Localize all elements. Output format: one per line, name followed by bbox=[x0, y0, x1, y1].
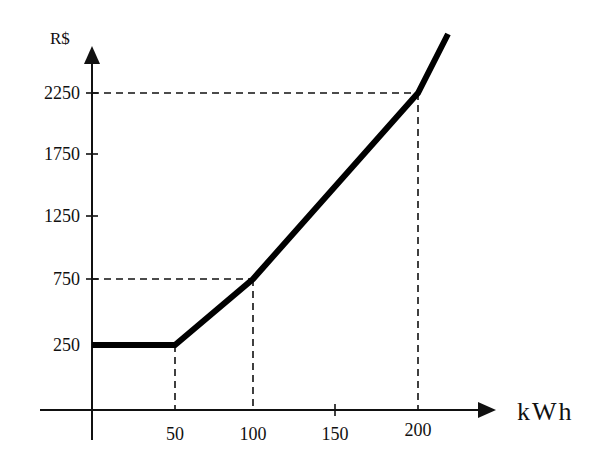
x-tick-label: 100 bbox=[240, 424, 267, 444]
y-tick-label: 1750 bbox=[44, 144, 80, 164]
y-tick-label: 250 bbox=[53, 335, 80, 355]
y-tick-label: 2250 bbox=[44, 83, 80, 103]
reference-lines bbox=[92, 93, 418, 410]
x-axis-label: kWh bbox=[517, 397, 574, 426]
y-tick-label: 750 bbox=[53, 269, 80, 289]
x-axis-arrow-icon bbox=[478, 402, 496, 418]
chart: 2250 1750 1250 750 250 50 100 150 200 R$… bbox=[0, 0, 608, 461]
data-line bbox=[92, 34, 448, 345]
x-tick-label: 150 bbox=[322, 424, 349, 444]
y-axis-arrow-icon bbox=[84, 46, 100, 64]
y-tick-label: 1250 bbox=[44, 206, 80, 226]
x-tick-label: 50 bbox=[166, 424, 184, 444]
y-axis-label: R$ bbox=[50, 29, 70, 48]
x-tick-label: 200 bbox=[405, 420, 432, 440]
